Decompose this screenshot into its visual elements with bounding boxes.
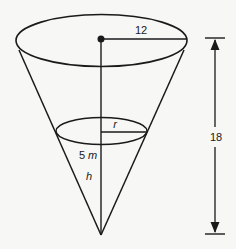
arrowhead-up-icon	[211, 39, 220, 50]
cone-left-side	[19, 50, 101, 235]
cone-right-side	[101, 50, 184, 235]
cone-svg: 12 18 r 5 m h	[0, 0, 236, 249]
water-depth-var-label: h	[86, 170, 92, 182]
top-radius-label: 12	[135, 24, 147, 36]
height-label: 18	[210, 131, 222, 143]
water-depth-number: 5	[79, 149, 85, 161]
cone-diagram: 12 18 r 5 m h	[0, 0, 236, 249]
arrowhead-down-icon	[211, 222, 220, 233]
water-depth-unit: m	[88, 149, 97, 161]
water-radius-label: r	[113, 118, 118, 130]
